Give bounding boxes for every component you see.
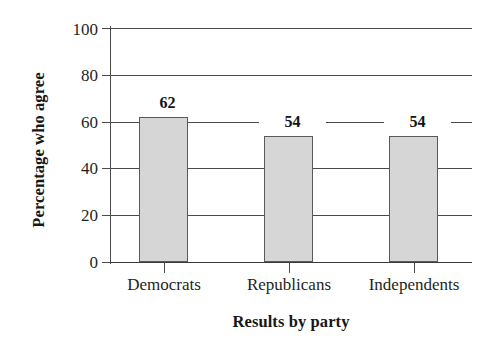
bar-chart: Percentage who agree 100 80 60 40 20 0 6… [0,0,489,358]
x-axis-title: Results by party [110,312,472,332]
y-axis-title: Percentage who agree [22,20,56,280]
category-label-independents: Independents [344,276,484,295]
bar-value-independents: 54 [384,113,451,131]
plot-area: 62 54 54 [110,28,472,262]
gridline-80 [110,75,472,76]
x-tick-mark-democrats [164,262,165,273]
bar-democrats [139,117,188,262]
x-tick-mark-independents [414,262,415,273]
bar-republicans [264,136,313,262]
y-tick-label-80: 80 [36,67,98,84]
y-tick-label-20: 20 [36,207,98,224]
y-tick-label-60: 60 [36,114,98,131]
y-tick-label-0: 0 [36,254,98,271]
gridline-100 [110,28,472,29]
category-label-democrats: Democrats [94,276,234,295]
y-tick-label-40: 40 [36,160,98,177]
bar-value-democrats: 62 [134,94,201,112]
category-label-republicans: Republicans [219,276,359,295]
bar-value-republicans: 54 [259,113,326,131]
y-tick-label-100: 100 [36,21,98,38]
bar-independents [389,136,438,262]
x-tick-mark-republicans [289,262,290,273]
